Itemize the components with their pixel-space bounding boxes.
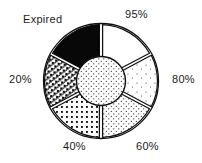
pie-label-20: 20% — [9, 73, 32, 85]
pie-label-95: 95% — [125, 8, 148, 20]
pie-label-expired: Expired — [23, 13, 62, 25]
pie-label-80: 80% — [172, 73, 195, 85]
pie-chart-figure: Expired 95% 80% 60% 40% 20% — [0, 0, 202, 163]
pie-label-60: 60% — [136, 140, 159, 152]
pie-center-hub — [77, 57, 126, 106]
pie-label-40: 40% — [63, 140, 86, 152]
